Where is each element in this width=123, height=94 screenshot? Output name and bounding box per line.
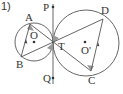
point-Q — [52, 77, 55, 80]
label-O-prime: O' — [81, 44, 91, 56]
label-T: T — [58, 40, 65, 52]
point-P — [52, 6, 55, 9]
problem-number: 1) — [1, 0, 11, 12]
diagram-canvas: 1) A B C D O O' T P Q — [0, 0, 123, 94]
label-C: C — [88, 74, 95, 86]
label-O: O — [30, 29, 38, 41]
center-O-prime — [84, 41, 87, 44]
geometry-figure: 1) A B C D O O' T P Q — [0, 0, 123, 94]
label-B: B — [16, 58, 23, 70]
label-P: P — [43, 1, 49, 13]
label-A: A — [25, 11, 33, 23]
label-D: D — [101, 4, 109, 16]
label-Q: Q — [43, 72, 51, 84]
center-O — [33, 41, 36, 44]
segment-DC — [91, 19, 103, 71]
